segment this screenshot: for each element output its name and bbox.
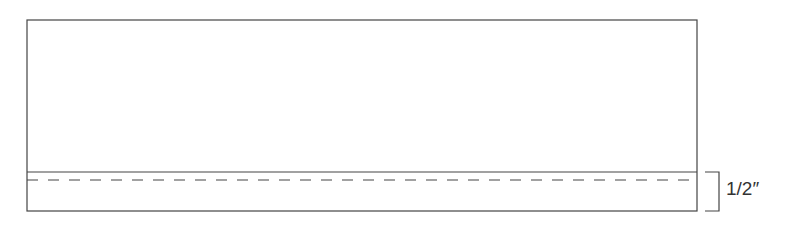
hem-width-label: 1/2″ [726,178,759,200]
measurement-bracket [705,172,719,211]
fabric-rectangle [27,20,697,211]
hem-diagram [0,0,802,228]
